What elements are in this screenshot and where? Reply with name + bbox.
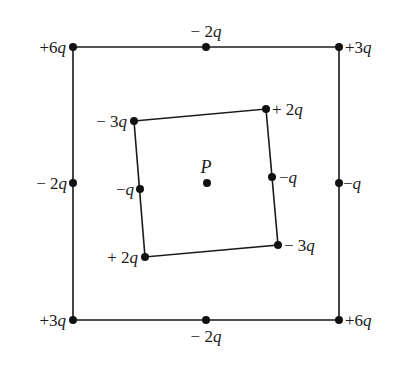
charge-dot: [136, 185, 144, 193]
charge-dot: [69, 316, 77, 324]
charge-dot: [130, 117, 138, 125]
outer-charge-left-mid: − 2q: [36, 174, 77, 193]
inner-charge-bottom-left: + 2q: [107, 248, 149, 267]
charge-label: − 3q: [284, 236, 315, 255]
charge-label: −q: [279, 168, 298, 187]
charge-dot: [335, 43, 343, 51]
charge-diagram: +6q+3q+6q+3q− 2q−q− 2q− 2q− 3q+ 2q− 3q+ …: [0, 0, 408, 372]
charge-dot: [268, 173, 276, 181]
charge-label: − 2q: [36, 174, 67, 193]
charge-label: +3q: [39, 311, 66, 330]
point-p-dot: [203, 179, 211, 187]
outer-charge-bottom-right: +6q: [335, 311, 372, 330]
charge-label: +6q: [345, 311, 372, 330]
outer-charge-top-right: +3q: [335, 38, 372, 57]
charge-label: − 3q: [96, 112, 127, 131]
charge-dot: [141, 253, 149, 261]
charge-label: +3q: [345, 38, 372, 57]
inner-charge-top-left: − 3q: [96, 112, 138, 131]
charge-label: + 2q: [272, 100, 303, 119]
point-p-label: P: [200, 157, 212, 177]
charge-label: −q: [343, 174, 362, 193]
charge-label: −q: [116, 180, 135, 199]
center-point-p: P: [200, 157, 212, 187]
charge-label: − 2q: [191, 327, 222, 346]
charge-dot: [335, 316, 343, 324]
charge-dot: [274, 241, 282, 249]
charge-label: +6q: [39, 38, 66, 57]
inner-charge-top-right: + 2q: [262, 100, 303, 119]
outer-charge-bottom-left: +3q: [39, 311, 77, 330]
charge-label: − 2q: [191, 22, 222, 41]
charge-dot: [262, 105, 270, 113]
outer-charge-top-left: +6q: [39, 38, 77, 57]
charge-dot: [335, 179, 343, 187]
charge-label: + 2q: [107, 248, 138, 267]
charge-dot: [202, 43, 210, 51]
charge-dot: [202, 316, 210, 324]
charge-dot: [69, 43, 77, 51]
inner-charge-bottom-right: − 3q: [274, 236, 315, 255]
diagram-canvas: +6q+3q+6q+3q− 2q−q− 2q− 2q− 3q+ 2q− 3q+ …: [0, 0, 408, 372]
charge-dot: [69, 179, 77, 187]
